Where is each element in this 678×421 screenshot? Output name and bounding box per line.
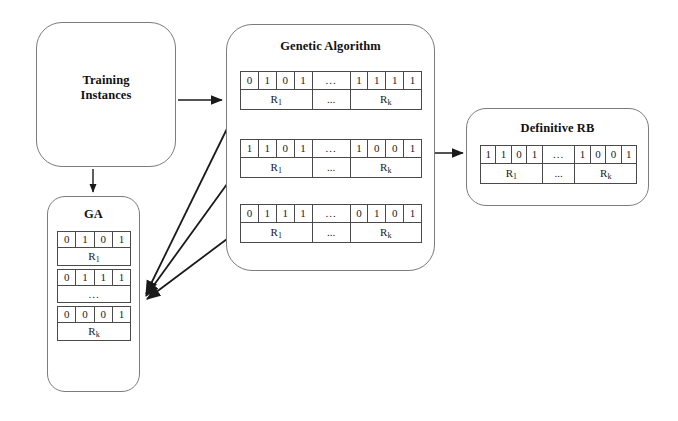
name-segment-last: Rk (575, 164, 636, 183)
rule-name: Rk (351, 223, 422, 242)
chromosome-segment-first: 0 1 0 1 (241, 72, 313, 89)
rule-name-sub: k (387, 98, 391, 107)
chromosome-names: R1 ... Rk (241, 90, 421, 109)
ga-bit: 1 (113, 270, 130, 285)
bit-cell: 0 (241, 205, 259, 222)
bit-cell: 0 (591, 146, 606, 163)
chromosome-names: R1 ... Rk (241, 223, 421, 242)
bit-cell: 1 (277, 205, 295, 222)
bit-cell: 0 (386, 205, 404, 222)
ga-rule-last-name-row: Rk (57, 323, 131, 341)
chromosome-bits: 1 1 0 1 ... 1 0 0 1 (481, 146, 636, 164)
rule-name-text: R (271, 226, 278, 238)
chromosome-segment-gap: ... (313, 205, 351, 222)
ga-bit: 0 (95, 307, 113, 322)
bit-cell: 1 (351, 140, 369, 157)
gap-ellipsis: ... (313, 158, 350, 177)
gap-ellipsis: ... (313, 72, 350, 89)
name-segment-last: Rk (351, 90, 422, 109)
bit-cell: 1 (368, 205, 386, 222)
chromosome-row: 1 1 0 1 ... 1 0 0 1 R1 (240, 139, 422, 178)
ga-rule-2-bits: 0 1 1 1 (57, 269, 131, 286)
genetic-algorithm-box: Genetic Algorithm 0 1 0 1 ... 1 1 1 1 (226, 24, 435, 271)
name-segment-last: Rk (351, 158, 422, 177)
definitive-rb-chromosome: 1 1 0 1 ... 1 0 0 1 R1 (480, 145, 637, 184)
name-segment-first: R1 (481, 164, 543, 183)
gap-ellipsis: ... (313, 223, 350, 242)
rule-name: Rk (575, 164, 636, 183)
ga-box-title: GA (48, 207, 139, 222)
bit-cell: 0 (351, 205, 369, 222)
ga-rule-name: Rk (58, 323, 130, 340)
rule-name-sub: 1 (278, 166, 282, 175)
chromosome-segment-last: 0 1 0 1 (351, 205, 422, 222)
name-segment-gap: ... (313, 90, 351, 109)
name-segment-gap: ... (543, 164, 576, 183)
bit-cell: 0 (386, 140, 404, 157)
chromosome-bits: 0 1 0 1 ... 1 1 1 1 (241, 72, 421, 90)
chromosome-row: 0 1 0 1 ... 1 1 1 1 R1 (240, 71, 422, 110)
bit-cell: 1 (404, 72, 421, 89)
bit-cell: 1 (259, 72, 277, 89)
ga-rule-1: 0 1 0 1 R1 (57, 231, 131, 266)
ga-bit: 0 (76, 307, 94, 322)
bit-cell: 0 (241, 72, 259, 89)
bit-cell: 1 (259, 205, 277, 222)
bit-cell: 0 (368, 140, 386, 157)
bit-cell: 1 (386, 72, 404, 89)
name-segment-first: R1 (241, 158, 313, 177)
bit-cell: 1 (404, 205, 421, 222)
ga-rule-last-bits: 0 0 0 1 (57, 306, 131, 323)
genetic-algorithm-title: Genetic Algorithm (227, 39, 434, 54)
rule-name: R1 (481, 164, 542, 183)
bit-cell: 0 (606, 146, 621, 163)
bit-cell: 0 (512, 146, 527, 163)
rule-name-sub: k (387, 166, 391, 175)
bit-cell: 1 (241, 140, 259, 157)
chromosome-segment-first: 1 1 0 1 (241, 140, 313, 157)
chromosome-bits: 0 1 1 1 ... 0 1 0 1 (241, 205, 421, 223)
chromosome-segment-gap: ... (313, 72, 351, 89)
ga-bit: 0 (58, 270, 76, 285)
ga-bit: 0 (95, 232, 113, 247)
chromosome-segment-last: 1 0 0 1 (575, 146, 636, 163)
bit-cell: 1 (368, 72, 386, 89)
bit-cell: 1 (404, 140, 421, 157)
bit-cell: 1 (481, 146, 496, 163)
gap-ellipsis: ... (543, 164, 575, 183)
rule-name: Rk (351, 158, 422, 177)
training-instances-box: Training Instances (36, 22, 176, 167)
ga-rule-name-text: R (88, 325, 95, 337)
definitive-rb-box: Definitive RB 1 1 0 1 ... 1 0 0 1 (466, 108, 649, 206)
ga-rule-ellipsis: ... (57, 286, 131, 303)
rule-name-sub: k (387, 231, 391, 240)
rule-name-text: R (506, 167, 513, 179)
rule-name: R1 (241, 90, 312, 109)
ga-rule-stack: 0 1 0 1 R1 0 1 1 1 ... (57, 231, 131, 344)
rule-name-sub: k (607, 172, 611, 181)
chromosome-segment-gap: ... (313, 140, 351, 157)
ga-box: GA 0 1 0 1 R1 0 1 1 1 (47, 196, 140, 392)
chromosome-segment-first: 1 1 0 1 (481, 146, 543, 163)
name-segment-first: R1 (241, 223, 313, 242)
bit-cell: 1 (622, 146, 636, 163)
bit-cell: 1 (259, 140, 277, 157)
chromosome-segment-gap: ... (543, 146, 576, 163)
chromosome-bits: 1 1 0 1 ... 1 0 0 1 (241, 140, 421, 158)
ga-rule-name-text: R (88, 250, 95, 262)
rule-name-sub: 1 (278, 98, 282, 107)
bit-cell: 1 (295, 72, 312, 89)
chromosome-segment-last: 1 0 0 1 (351, 140, 422, 157)
chromosome-segment-first: 0 1 1 1 (241, 205, 313, 222)
bit-cell: 0 (277, 140, 295, 157)
rule-name: R1 (241, 223, 312, 242)
rule-name-sub: 1 (278, 231, 282, 240)
rule-name: Rk (351, 90, 422, 109)
training-instances-label: Training Instances (37, 73, 175, 103)
gap-ellipsis: ... (313, 205, 350, 222)
bit-cell: 1 (295, 140, 312, 157)
chromosome-names: R1 ... Rk (481, 164, 636, 183)
ga-bit: 1 (76, 232, 94, 247)
ga-rule-name-sub: k (96, 330, 100, 339)
chromosome-segment-last: 1 1 1 1 (351, 72, 422, 89)
